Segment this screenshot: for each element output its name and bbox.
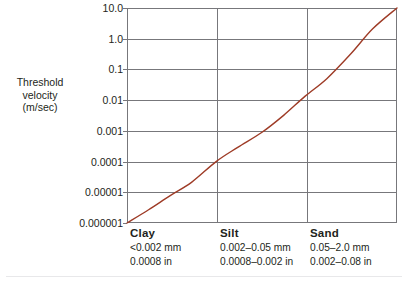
- y-axis-tick-label: 1.0: [48, 33, 123, 44]
- category-size-in: 0.0008–0.002 in: [220, 255, 293, 269]
- category-name: Clay: [130, 226, 181, 241]
- y-axis-tick-label: 0.00001: [48, 187, 123, 198]
- y-axis-tick-label: 10.0: [48, 3, 123, 14]
- y-axis-tick-label: 0.000001: [48, 218, 123, 229]
- threshold-velocity-curve: [127, 8, 397, 223]
- chart-figure: Threshold velocity (m/sec) 10.01.00.10.0…: [0, 0, 407, 290]
- curve-path: [127, 8, 397, 223]
- category-legend-row: Clay<0.002 mm0.0008 inSilt0.002–0.05 mm0…: [127, 226, 407, 272]
- y-axis-tick-labels: 10.01.00.10.010.0010.00010.000010.000001: [48, 0, 123, 290]
- y-axis-tick-label: 0.1: [48, 64, 123, 75]
- y-axis-tick-label: 0.0001: [48, 156, 123, 167]
- category-size-mm: <0.002 mm: [130, 241, 181, 255]
- y-axis-tick-label: 0.001: [48, 126, 123, 137]
- category-size-mm: 0.05–2.0 mm: [310, 241, 372, 255]
- category-block-sand: Sand0.05–2.0 mm0.002–0.08 in: [310, 226, 372, 269]
- category-size-in: 0.0008 in: [130, 255, 181, 269]
- category-name: Silt: [220, 226, 293, 241]
- y-axis-tick-label: 0.01: [48, 95, 123, 106]
- footer-divider: [6, 276, 402, 277]
- category-name: Sand: [310, 226, 372, 241]
- plot-area: [127, 8, 397, 223]
- category-size-in: 0.002–0.08 in: [310, 255, 372, 269]
- category-size-mm: 0.002–0.05 mm: [220, 241, 293, 255]
- category-block-silt: Silt0.002–0.05 mm0.0008–0.002 in: [220, 226, 293, 269]
- category-block-clay: Clay<0.002 mm0.0008 in: [130, 226, 181, 269]
